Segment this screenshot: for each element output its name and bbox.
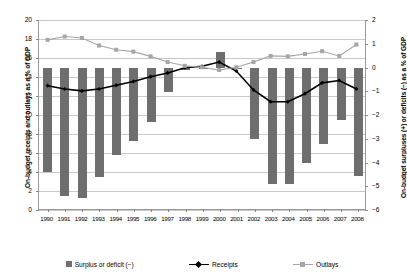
data-point-marker xyxy=(217,68,221,72)
tick-mark-left xyxy=(36,20,39,21)
bar xyxy=(233,68,242,69)
tick-mark-left xyxy=(36,58,39,59)
bar xyxy=(43,68,52,173)
tick-mark-x xyxy=(117,209,118,212)
y-tick-label-left: 10 xyxy=(16,111,32,118)
gridline xyxy=(39,134,365,135)
y-tick-label-left: 18 xyxy=(16,35,32,42)
legend-line-diamond-icon xyxy=(189,261,209,268)
tick-mark-right xyxy=(365,139,368,140)
bar xyxy=(216,52,225,67)
data-point-marker xyxy=(303,52,307,56)
tick-mark-left xyxy=(36,77,39,78)
legend-line-square-icon xyxy=(293,261,313,268)
tick-mark-x xyxy=(341,209,342,212)
y-tick-label-left: 0 xyxy=(16,206,32,213)
tick-mark-x xyxy=(238,209,239,212)
y-tick-label-left: 8 xyxy=(16,130,32,137)
bar xyxy=(112,68,121,156)
tick-mark-left xyxy=(36,39,39,40)
bar xyxy=(129,68,138,142)
tick-mark-x xyxy=(272,209,273,212)
tick-mark-x xyxy=(203,209,204,212)
tick-mark-left xyxy=(36,96,39,97)
tick-mark-x xyxy=(99,209,100,212)
legend-item: Outlays xyxy=(293,261,338,268)
tick-mark-x xyxy=(289,209,290,212)
tick-mark-left xyxy=(36,191,39,192)
y-tick-label-left: 2 xyxy=(16,187,32,194)
bar xyxy=(181,68,190,70)
tick-mark-x xyxy=(324,209,325,212)
tick-mark-x xyxy=(65,209,66,212)
data-point-marker xyxy=(63,35,67,39)
legend-item: Surplus or deficit (−) xyxy=(66,261,134,268)
gridline xyxy=(39,191,365,192)
tick-mark-x xyxy=(220,209,221,212)
tick-mark-right xyxy=(365,186,368,187)
bar xyxy=(95,68,104,177)
y-tick-label-right: 1 xyxy=(372,40,390,47)
data-point-marker xyxy=(131,50,135,54)
y-tick-label-left: 4 xyxy=(16,168,32,175)
y-tick-label-right: −5 xyxy=(372,182,390,189)
y-tick-label-right: −4 xyxy=(372,159,390,166)
gridline xyxy=(39,172,365,173)
x-tick-label: 2008 xyxy=(346,215,368,222)
legend-label: Outlays xyxy=(316,261,338,268)
gridline xyxy=(39,210,365,211)
bar xyxy=(268,68,277,184)
data-point-marker xyxy=(166,60,170,64)
gridline xyxy=(39,115,365,116)
tick-mark-x xyxy=(186,209,187,212)
y-axis-title-right: On-budget surpluses (+) or deficits (−) … xyxy=(400,33,407,203)
gridline xyxy=(39,20,365,21)
y-tick-label-right: −2 xyxy=(372,111,390,118)
y-tick-label-left: 12 xyxy=(16,92,32,99)
y-tick-label-left: 6 xyxy=(16,149,32,156)
tick-mark-right xyxy=(365,44,368,45)
tick-mark-x xyxy=(255,209,256,212)
tick-mark-x xyxy=(151,209,152,212)
chart-legend: Surplus or deficit (−)ReceiptsOutlays xyxy=(38,258,366,270)
tick-mark-left xyxy=(36,115,39,116)
tick-mark-x xyxy=(307,209,308,212)
data-point-marker xyxy=(354,43,358,47)
bar xyxy=(147,68,156,123)
legend-item: Receipts xyxy=(189,261,238,268)
bar xyxy=(60,68,69,196)
gridline xyxy=(39,39,365,40)
y-tick-label-left: 16 xyxy=(16,54,32,61)
bar xyxy=(319,68,328,144)
bar xyxy=(199,68,208,69)
tick-mark-right xyxy=(365,68,368,69)
y-tick-label-right: 2 xyxy=(372,16,390,23)
data-point-marker xyxy=(114,48,118,52)
data-point-marker xyxy=(251,60,255,64)
bar xyxy=(337,68,346,120)
tick-mark-x xyxy=(134,209,135,212)
bar xyxy=(250,68,259,139)
tick-mark-right xyxy=(365,163,368,164)
gridline xyxy=(39,77,365,78)
line-outlays xyxy=(48,37,357,71)
tick-mark-left xyxy=(36,134,39,135)
tick-mark-right xyxy=(365,210,368,211)
y-tick-label-right: −1 xyxy=(372,87,390,94)
y-tick-label-left: 20 xyxy=(16,16,32,23)
legend-label: Receipts xyxy=(212,261,238,268)
tick-mark-left xyxy=(36,172,39,173)
tick-mark-right xyxy=(365,20,368,21)
tick-mark-left xyxy=(36,153,39,154)
legend-label: Surplus or deficit (−) xyxy=(75,261,134,268)
bar xyxy=(78,68,87,199)
data-point-marker xyxy=(234,69,238,73)
bar xyxy=(302,68,311,163)
bar xyxy=(285,68,294,184)
gridline xyxy=(39,58,365,59)
tick-mark-x xyxy=(48,209,49,212)
bar xyxy=(354,68,363,176)
y-tick-label-right: −3 xyxy=(372,135,390,142)
bar xyxy=(164,68,173,93)
